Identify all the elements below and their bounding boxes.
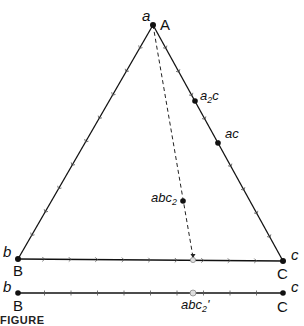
binary-c-component-label: C	[277, 298, 288, 315]
vertex-b-component-label: B	[13, 262, 23, 279]
label-abc2: abc2	[151, 190, 177, 207]
binary-b-component-label: B	[13, 297, 23, 314]
labels: aAbBcCa2cacabc2bBcCabc2'	[3, 7, 299, 315]
label-a2c: a2c	[200, 88, 219, 105]
label-abc2-prime: abc2'	[181, 297, 210, 314]
vertex-a-component-label: A	[160, 16, 170, 33]
vertex-a-phase-label: a	[142, 7, 150, 24]
label-ac: ac	[225, 126, 239, 141]
triangle-sides	[18, 25, 283, 261]
binary-projected-point	[190, 290, 196, 296]
vertex-b-phase-label: b	[3, 243, 11, 260]
vertex-C	[280, 258, 286, 264]
binary-b-phase-label: b	[3, 278, 11, 295]
binary-join-line	[15, 290, 286, 296]
composition-points	[15, 22, 286, 264]
point-a2c	[192, 98, 198, 104]
binary-c-phase-label: c	[291, 278, 299, 295]
projection-line	[153, 25, 193, 257]
point-abc2	[180, 198, 186, 204]
projected-point-marker	[190, 257, 195, 262]
projection-dashed-line	[153, 25, 196, 263]
point-ac	[215, 140, 221, 146]
binary-endpoint-b	[15, 290, 21, 296]
figure-caption: FIGURE	[0, 314, 45, 326]
binary-endpoint-c	[280, 290, 286, 296]
tick-marks	[31, 45, 271, 263]
vertex-A	[150, 22, 156, 28]
vertex-c-phase-label: c	[291, 246, 299, 263]
vertex-c-component-label: C	[277, 265, 288, 282]
